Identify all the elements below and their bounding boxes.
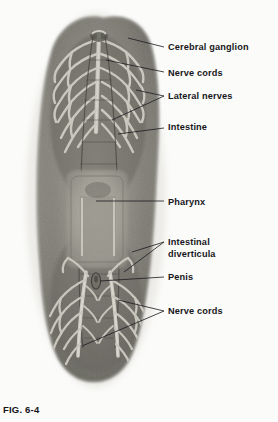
label-intestine: Intestine [168,122,207,133]
label-penis: Penis [168,272,193,283]
label-nerve-cords-top: Nerve cords [168,68,223,79]
label-lateral-nerves: Lateral nerves [168,91,232,102]
figure-caption: FIG. 6-4 [3,404,39,415]
label-pharynx: Pharynx [168,197,205,208]
label-intestinal-diverticula-line1: Intestinal [168,237,210,248]
label-cerebral-ganglion: Cerebral ganglion [168,42,249,53]
figure-plate: Cerebral ganglion Nerve cords Lateral ne… [0,0,278,422]
planarian-micrograph [0,0,278,400]
label-nerve-cords-bottom: Nerve cords [168,306,223,317]
label-intestinal-diverticula-line2: diverticula [168,249,216,260]
